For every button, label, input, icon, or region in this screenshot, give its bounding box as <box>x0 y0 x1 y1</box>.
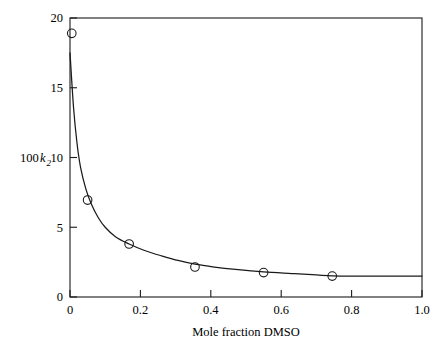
y-axis-title-symbol: k <box>40 151 46 165</box>
x-tick-label-0.8: 0.8 <box>344 303 360 317</box>
x-tick-label-0.4: 0.4 <box>203 303 219 317</box>
y-tick-labels: 20 15 10 5 0 <box>51 11 64 304</box>
chart-page: 20 15 10 5 0 0 0.2 0.4 0.6 0.8 1.0 Mole … <box>0 0 448 357</box>
y-tick-label-5: 5 <box>57 221 63 235</box>
y-axis-title-prefix: 100 <box>20 151 39 165</box>
x-tick-label-0: 0 <box>67 303 73 317</box>
y-tick-label-20: 20 <box>51 11 64 25</box>
y-tick-label-0: 0 <box>57 290 63 304</box>
y-axis-title-subscript: 2 <box>47 158 52 168</box>
fitted-curve <box>70 53 422 276</box>
x-axis-title: Mole fraction DMSO <box>192 325 300 339</box>
y-tick-label-10: 10 <box>51 151 64 165</box>
x-tick-labels: 0 0.2 0.4 0.6 0.8 1.0 <box>67 303 430 317</box>
x-axis-ticks <box>70 290 422 297</box>
y-tick-label-15: 15 <box>51 81 64 95</box>
y-axis-title: 100 k 2 <box>20 151 52 168</box>
x-tick-label-1.0: 1.0 <box>414 303 430 317</box>
x-tick-label-0.6: 0.6 <box>273 303 289 317</box>
kinetics-scatter-chart: 20 15 10 5 0 0 0.2 0.4 0.6 0.8 1.0 Mole … <box>0 0 448 357</box>
data-point-markers <box>67 29 336 280</box>
plot-frame <box>70 18 422 297</box>
data-point <box>83 196 92 205</box>
data-point <box>67 29 76 38</box>
x-tick-label-0.2: 0.2 <box>133 303 149 317</box>
